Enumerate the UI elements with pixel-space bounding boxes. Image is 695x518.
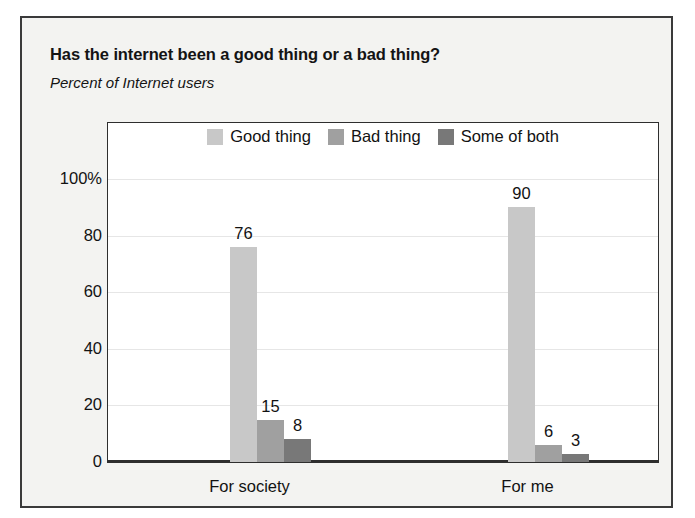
x-axis-category-label: For me	[501, 477, 553, 496]
chart-subtitle: Percent of Internet users	[50, 74, 214, 91]
bar-value-label: 90	[512, 184, 530, 203]
bar-value-label: 15	[261, 397, 279, 416]
gridlines	[108, 123, 658, 462]
y-axis-tick-label: 60	[84, 282, 102, 301]
bar-value-label: 8	[293, 416, 302, 435]
y-axis-tick-label: 0	[93, 452, 102, 471]
y-axis-tick-label: 40	[84, 338, 102, 357]
y-axis: 020406080100%	[44, 122, 102, 463]
bar[interactable]	[230, 247, 257, 462]
gridline	[108, 179, 658, 180]
x-axis-category-label: For society	[209, 477, 290, 496]
gridline	[108, 292, 658, 293]
y-axis-tick-label: 20	[84, 395, 102, 414]
bar-value-label: 6	[544, 422, 553, 441]
bar[interactable]	[257, 420, 284, 462]
gridline	[108, 349, 658, 350]
bar[interactable]	[535, 445, 562, 462]
bar[interactable]	[562, 454, 589, 462]
gridline	[108, 405, 658, 406]
bar-value-label: 3	[571, 431, 580, 450]
page-title: Has the internet been a good thing or a …	[50, 45, 440, 64]
y-axis-tick-label: 100%	[60, 169, 102, 188]
bar[interactable]	[284, 439, 311, 462]
gridline	[108, 236, 658, 237]
figure-frame: Has the internet been a good thing or a …	[20, 16, 673, 508]
bar[interactable]	[508, 207, 535, 462]
bar-value-label: 76	[234, 224, 252, 243]
plot-area: 761589063 Good thingBad thingSome of bot…	[107, 122, 659, 463]
y-axis-tick-label: 80	[84, 225, 102, 244]
